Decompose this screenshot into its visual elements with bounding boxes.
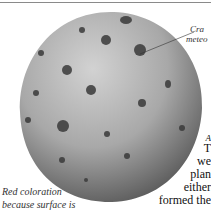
crater-label-line2: meteo: [186, 34, 208, 44]
cratered-sphere-illustration: [16, 8, 206, 204]
top-rule: [0, 2, 211, 3]
crater-label-line1: Cra: [190, 24, 204, 34]
body-text-line5: formed the: [159, 194, 211, 207]
coloration-label-line1: Red coloration: [2, 186, 62, 198]
coloration-label-line2: because surface is: [2, 199, 75, 211]
